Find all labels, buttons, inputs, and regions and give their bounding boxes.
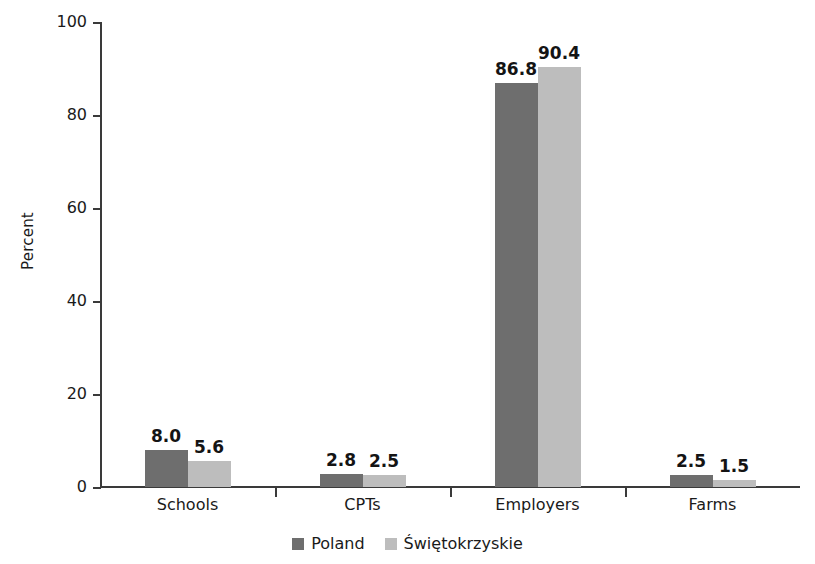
legend-swatch-icon	[385, 538, 397, 550]
y-axis-tick-label: 100	[41, 12, 87, 31]
bar-value-label: 90.4	[529, 43, 589, 63]
y-axis-tick-label: 0	[41, 477, 87, 496]
x-axis-tick	[625, 488, 627, 497]
y-axis-tick: 100	[93, 22, 101, 24]
x-axis-label-farms: Farms	[643, 495, 783, 514]
legend-item-0[interactable]: Poland	[292, 534, 364, 553]
legend-label: Poland	[311, 534, 364, 553]
y-axis-tick-label: 60	[41, 198, 87, 217]
y-axis-line	[100, 22, 102, 488]
x-axis-label-schools: Schools	[118, 495, 258, 514]
x-axis-label-cpts: CPTs	[293, 495, 433, 514]
bar-cpts-poland	[320, 474, 363, 487]
y-axis-tick-label: 20	[41, 384, 87, 403]
legend-swatch-icon	[292, 538, 304, 550]
x-axis-tick	[275, 488, 277, 497]
y-axis-tick-label: 40	[41, 291, 87, 310]
y-axis-tick: 60	[93, 208, 101, 210]
bar-chart: Percent 020406080100 8.05.62.82.586.890.…	[0, 0, 815, 564]
legend-item-1[interactable]: Świętokrzyskie	[385, 534, 523, 553]
x-axis-label-employers: Employers	[468, 495, 608, 514]
x-axis-tick	[450, 488, 452, 497]
bar-farms-poland	[670, 475, 713, 487]
y-axis-tick: 0	[93, 487, 101, 489]
plot-area: 020406080100 8.05.62.82.586.890.42.51.5	[100, 22, 800, 487]
bar-schools-świętokrzyskie	[188, 461, 231, 487]
y-axis-tick: 80	[93, 115, 101, 117]
y-axis-tick: 20	[93, 394, 101, 396]
bar-employers-poland	[495, 83, 538, 487]
chart-legend: PolandŚwiętokrzyskie	[0, 534, 815, 553]
bar-value-label: 5.6	[179, 437, 239, 457]
y-axis-tick: 40	[93, 301, 101, 303]
bar-value-label: 1.5	[704, 456, 764, 476]
bar-cpts-świętokrzyskie	[363, 475, 406, 487]
legend-label: Świętokrzyskie	[404, 534, 523, 553]
bar-value-label: 2.5	[354, 451, 414, 471]
y-axis-tick-label: 80	[41, 105, 87, 124]
bar-farms-świętokrzyskie	[713, 480, 756, 487]
bar-employers-świętokrzyskie	[538, 67, 581, 487]
y-axis-title: Percent	[19, 181, 37, 301]
